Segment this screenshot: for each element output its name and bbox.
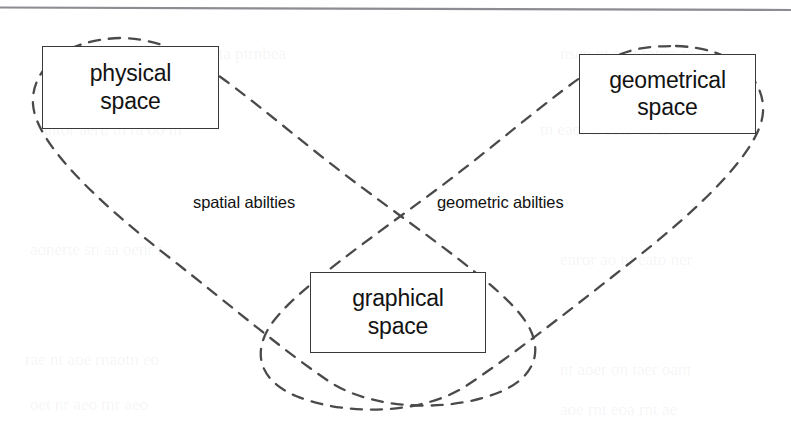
node-physical-space[interactable]: physical space (42, 46, 219, 129)
node-label-line-1: geometrical (609, 67, 726, 94)
node-geometrical-space[interactable]: geometrical space (579, 54, 756, 134)
node-label-line-2: space (368, 313, 428, 340)
region-label-spatial-abilities: spatial abilties (193, 193, 295, 212)
node-label-line-1: physical (90, 60, 172, 87)
page-rule (0, 8, 791, 11)
node-graphical-space[interactable]: graphical space (310, 272, 486, 353)
region-label-geometric-abilities: geometric abilties (437, 193, 564, 212)
node-label-line-2: space (100, 88, 160, 115)
node-label-line-2: space (637, 94, 697, 121)
node-label-line-1: graphical (352, 285, 444, 312)
figure-canvas: dnerrnsnt ta ptrnbea nseo ot anu rateo e… (0, 0, 791, 423)
